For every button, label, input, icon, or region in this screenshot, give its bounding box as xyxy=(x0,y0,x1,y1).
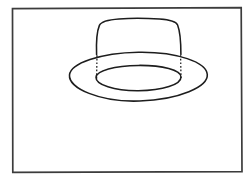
drawing-canvas xyxy=(0,0,247,180)
hat-line-drawing xyxy=(0,0,247,180)
